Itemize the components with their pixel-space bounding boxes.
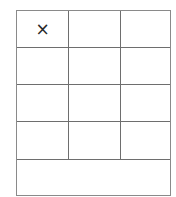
x-mark-icon: ×	[35, 21, 49, 38]
cell-3-2[interactable]	[121, 122, 170, 159]
cell-0-1[interactable]	[69, 11, 120, 47]
game-board: ×	[16, 10, 171, 196]
cell-3-0[interactable]	[17, 122, 68, 159]
cell-2-2[interactable]	[121, 85, 170, 121]
cell-3-1[interactable]	[69, 122, 120, 159]
cell-1-0[interactable]	[17, 48, 68, 84]
cell-1-2[interactable]	[121, 48, 170, 84]
cell-2-0[interactable]	[17, 85, 68, 121]
footer-cell[interactable]	[17, 160, 170, 195]
cell-1-1[interactable]	[69, 48, 120, 84]
cell-0-2[interactable]	[121, 11, 170, 47]
cell-2-1[interactable]	[69, 85, 120, 121]
cell-0-0[interactable]: ×	[17, 11, 68, 47]
